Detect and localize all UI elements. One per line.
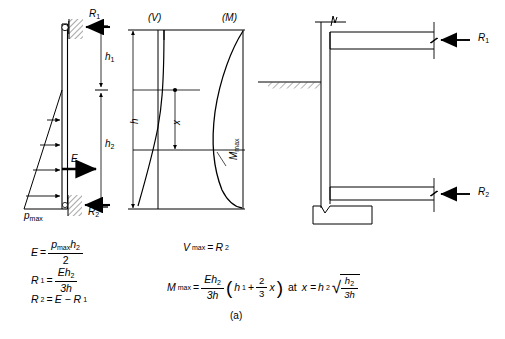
figure-caption: (a) — [230, 311, 242, 321]
equation-R1: R1 = Eh2 3h — [31, 266, 77, 295]
bottom-support — [62, 195, 82, 216]
strut-end-marker-top — [430, 22, 438, 59]
label-R2-right: R2 — [478, 187, 489, 198]
label-Mmax: Mmax — [229, 138, 240, 160]
lower-strut — [330, 187, 434, 200]
top-support — [62, 19, 83, 39]
right-panel — [258, 16, 470, 224]
wall-section — [62, 24, 68, 209]
wall-vertical — [321, 22, 330, 208]
footing — [313, 200, 372, 224]
break-symbol-top — [315, 16, 346, 26]
label-R1-right: R1 — [478, 33, 489, 44]
label-h1: h1 — [105, 52, 114, 63]
upper-strut — [330, 32, 434, 49]
label-R1-left: R1 — [89, 9, 100, 20]
moment-diagram — [213, 30, 243, 209]
strut-end-marker-bottom — [430, 178, 438, 212]
equation-R2: R2 = E − R1 — [31, 293, 87, 305]
shear-diagram — [138, 30, 164, 209]
ground-line — [258, 82, 321, 89]
label-E: E — [71, 154, 78, 164]
label-pmax: pmax — [24, 211, 43, 222]
equation-E: E = pmaxh2 2 — [31, 238, 83, 267]
equation-Vmax: Vmax = R2 — [183, 241, 229, 253]
label-R2-left: R2 — [88, 207, 99, 218]
equation-Mmax: Mmax = Eh2 3h ( h1 + 2 3 x ) at x = h2 √… — [167, 273, 360, 302]
label-M-diagram: (M) — [222, 13, 237, 23]
middle-panel — [128, 30, 245, 209]
pressure-triangle — [24, 90, 62, 209]
x-dimension — [173, 88, 177, 149]
label-V-diagram: (V) — [148, 13, 161, 23]
left-panel — [24, 19, 110, 216]
label-x-dimension: x — [172, 120, 182, 125]
label-h-dimension: h — [130, 118, 140, 124]
label-h2: h2 — [105, 139, 114, 150]
